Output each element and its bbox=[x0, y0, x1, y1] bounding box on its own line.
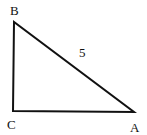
side-label-ab: 5 bbox=[79, 45, 86, 60]
vertex-label-a: A bbox=[130, 120, 140, 135]
vertex-label-c: C bbox=[7, 117, 16, 132]
triangle-diagram: B C A 5 bbox=[0, 0, 147, 135]
vertex-label-b: B bbox=[10, 3, 19, 18]
triangle-abc bbox=[13, 22, 134, 112]
